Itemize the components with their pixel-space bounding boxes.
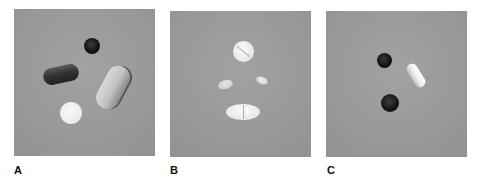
scored-oval-tablet	[226, 104, 260, 120]
panel-c-photo	[326, 11, 467, 157]
small-black-round-tablet	[377, 53, 392, 68]
score-line	[243, 105, 244, 119]
panel-label-c: C	[327, 164, 335, 176]
panel-label-a: A	[14, 164, 22, 176]
panel-b-photo	[170, 11, 311, 157]
score-line	[237, 46, 251, 58]
black-round-tablet	[84, 38, 100, 54]
scored-round-tablet	[233, 41, 254, 62]
panel-label-b: B	[170, 164, 178, 176]
white-round-tablet	[60, 102, 82, 124]
panel-a-photo	[14, 9, 155, 156]
large-black-round-tablet	[381, 94, 399, 112]
